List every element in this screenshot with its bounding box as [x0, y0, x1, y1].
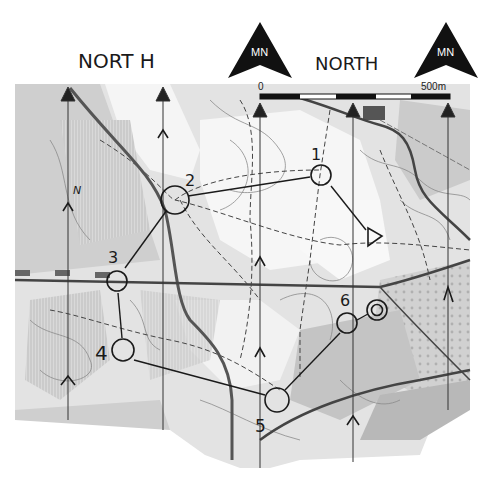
control-number-6: 6 — [340, 291, 350, 310]
control-number-3: 3 — [108, 248, 118, 267]
scale-end-label: 500m — [421, 81, 446, 92]
scale-start-label: 0 — [258, 81, 264, 92]
north-label-left: NORT H — [78, 49, 155, 73]
north-label-right: NORTH — [315, 53, 378, 74]
mn-label-left: MN — [251, 46, 268, 58]
control-number-5: 5 — [255, 416, 266, 436]
orienteering-map: 1 2 3 4 5 6 N NORT H NORTH MN MN 0 500m — [0, 0, 488, 482]
control-number-1: 1 — [311, 145, 321, 164]
n-letter: N — [73, 184, 81, 197]
mn-arrow-right: MN — [414, 22, 478, 78]
mn-arrow-left: MN — [228, 22, 292, 78]
control-number-2: 2 — [185, 171, 195, 190]
mn-label-right: MN — [437, 46, 454, 58]
control-number-4: 4 — [95, 341, 108, 365]
map-base — [15, 84, 470, 468]
